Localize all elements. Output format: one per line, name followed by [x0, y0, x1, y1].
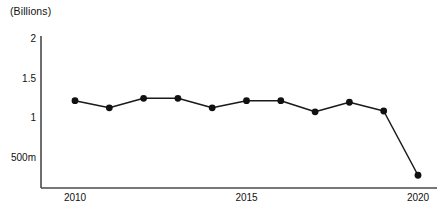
- data-point: [72, 97, 79, 104]
- data-point: [209, 104, 216, 111]
- data-point: [175, 95, 182, 102]
- data-point: [140, 95, 147, 102]
- data-point: [277, 97, 284, 104]
- data-point: [346, 99, 353, 106]
- data-point: [415, 172, 422, 179]
- data-point: [106, 104, 113, 111]
- data-line: [75, 98, 418, 175]
- line-chart: (Billions) 21.51500m 201020152020: [0, 0, 441, 220]
- data-point: [243, 97, 250, 104]
- data-point: [380, 108, 387, 115]
- plot-area: [0, 0, 441, 220]
- data-point: [312, 108, 319, 115]
